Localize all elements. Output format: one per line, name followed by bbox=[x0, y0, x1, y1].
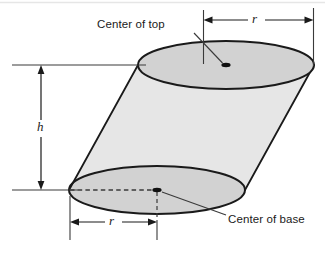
height-top-arrowhead bbox=[38, 65, 45, 74]
height-label: h bbox=[35, 120, 46, 133]
height-bottom-arrowhead bbox=[38, 181, 45, 190]
base-radius-label: r bbox=[107, 214, 116, 227]
top-center-dot bbox=[221, 63, 230, 67]
base-radius-left-arrowhead bbox=[70, 219, 79, 226]
center-of-base-label: Center of base bbox=[228, 214, 305, 226]
center-of-top-label: Center of top bbox=[97, 19, 165, 31]
top-radius-left-arrowhead bbox=[204, 17, 213, 24]
top-radius-label: r bbox=[250, 12, 259, 25]
top-radius-right-arrowhead bbox=[305, 17, 314, 24]
oblique-cylinder-figure: Center of top Center of base r h r bbox=[0, 0, 325, 256]
base-radius-right-arrowhead bbox=[148, 219, 157, 226]
base-center-dot bbox=[152, 188, 161, 192]
